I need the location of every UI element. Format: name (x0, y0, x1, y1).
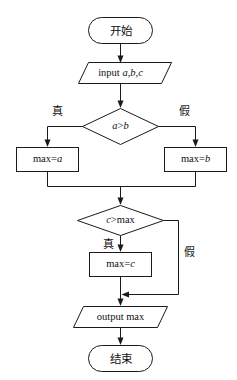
decision-cmax-right: max (117, 214, 136, 225)
max-a-label-keyword: max= (33, 153, 57, 164)
input-label-keyword: input (98, 67, 120, 78)
node-max-c[interactable]: max=c (90, 253, 152, 277)
input-label: input a,b,c (98, 67, 143, 78)
flowchart-svg: 开始 input a,b,c a>b 真 假 max=a (0, 0, 237, 380)
max-b-label-keyword: max= (181, 153, 205, 164)
max-b-label-vars: b (205, 153, 210, 164)
node-decision-cmax[interactable]: c>max (78, 206, 164, 236)
edge-label-ab-true: 真 (52, 104, 63, 118)
max-a-label-vars: a (57, 153, 62, 164)
flowchart-canvas: 开始 input a,b,c a>b 真 假 max=a (0, 0, 237, 380)
max-c-label: max=c (106, 258, 135, 269)
edge-decision-cmax-true (118, 235, 124, 252)
edge-start-to-input (118, 44, 124, 63)
max-b-label: max=b (181, 153, 210, 164)
max-c-label-keyword: max= (106, 258, 130, 269)
edge-decision-ab-false (158, 127, 199, 148)
decision-ab-label: a>b (112, 120, 128, 131)
node-start[interactable]: 开始 (89, 18, 153, 44)
decision-ab-right: b (123, 120, 128, 131)
edge-output-to-end (118, 328, 124, 345)
node-output[interactable]: output max (74, 307, 168, 328)
node-max-a[interactable]: max=a (17, 148, 79, 172)
input-label-vars: a,b,c (122, 67, 143, 78)
edge-label-ab-false: 假 (179, 104, 190, 118)
edge-max-a-to-merge (48, 172, 121, 187)
edge-label-cmax-false: 假 (184, 245, 195, 259)
edge-label-cmax-true: 真 (103, 237, 114, 251)
edge-input-to-decision-ab (118, 84, 124, 108)
node-input[interactable]: input a,b,c (79, 63, 172, 84)
max-c-label-vars: c (130, 258, 135, 269)
edge-merge-to-decision-cmax (118, 187, 124, 206)
max-a-label: max=a (33, 153, 62, 164)
decision-cmax-label: c>max (106, 214, 135, 225)
node-decision-ab[interactable]: a>b (83, 109, 159, 145)
end-label: 结束 (110, 352, 133, 366)
edge-join-to-output (118, 295, 124, 307)
start-label: 开始 (110, 24, 133, 38)
node-max-b[interactable]: max=b (165, 148, 227, 172)
edge-max-b-to-merge (121, 172, 196, 187)
edge-decision-ab-true (45, 127, 84, 148)
output-label: output max (97, 311, 145, 322)
node-end[interactable]: 结束 (89, 346, 153, 372)
